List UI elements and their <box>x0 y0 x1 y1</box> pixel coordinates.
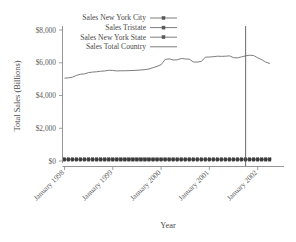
data-point-marker <box>216 158 218 160</box>
x-axis-title: Year <box>160 221 176 230</box>
data-point-marker <box>128 158 130 160</box>
data-point-marker <box>236 158 238 160</box>
y-tick-marks <box>59 30 63 161</box>
data-point-marker <box>261 158 263 160</box>
data-point-marker <box>136 158 138 160</box>
data-point-marker <box>228 158 230 160</box>
data-point-marker <box>116 158 118 160</box>
data-point-marker <box>188 158 190 160</box>
data-point-marker <box>75 158 77 160</box>
legend-sample-marker-0 <box>162 17 165 20</box>
y-tick-labels: $8,000 $6,000 $4,000 $2,000 $0 <box>36 26 57 166</box>
data-point-marker <box>224 158 226 160</box>
x-tick-label-1999: January 1999 <box>80 168 115 203</box>
y-tick-label-2000: $2,000 <box>36 124 57 133</box>
legend-label-0: Sales New York City <box>82 13 146 22</box>
data-point-marker <box>152 158 154 160</box>
data-point-marker <box>196 158 198 160</box>
data-point-marker <box>132 158 134 160</box>
data-point-marker <box>79 158 81 160</box>
data-point-marker <box>87 158 89 160</box>
data-point-marker <box>71 158 73 160</box>
data-point-marker <box>140 158 142 160</box>
chart-canvas: $8,000 $6,000 $4,000 $2,000 $0 Total Sal… <box>0 0 296 242</box>
data-point-marker <box>112 158 114 160</box>
data-point-marker <box>168 158 170 160</box>
data-point-marker <box>208 158 210 160</box>
data-point-marker <box>252 158 254 160</box>
x-tick-label-2002: January 2002 <box>225 168 260 203</box>
legend-label-3: Sales Total Country <box>86 42 146 51</box>
data-point-marker <box>192 158 194 160</box>
x-tick-label-1998: January 1998 <box>32 168 67 203</box>
data-point-marker <box>160 158 162 160</box>
data-point-marker <box>148 158 150 160</box>
legend-label-2: Sales New York State <box>80 33 146 42</box>
chart-figure: $8,000 $6,000 $4,000 $2,000 $0 Total Sal… <box>0 0 296 242</box>
x-tick-label-2000: January 2000 <box>128 168 163 203</box>
chart-legend: Sales New York CitySales TristateSales N… <box>80 13 177 51</box>
x-tick-marks <box>65 167 258 171</box>
data-point-marker <box>184 158 186 160</box>
data-point-marker <box>124 158 126 160</box>
data-point-marker <box>232 158 234 160</box>
data-point-marker <box>63 158 65 160</box>
data-point-marker <box>240 158 242 160</box>
data-point-marker <box>180 158 182 160</box>
series-line-3 <box>65 55 270 78</box>
data-point-marker <box>108 158 110 160</box>
y-tick-label-0: $0 <box>49 157 57 166</box>
data-point-marker <box>172 158 174 160</box>
data-point-marker <box>83 158 85 160</box>
x-tick-labels: January 1998 January 1999 January 2000 J… <box>32 168 260 203</box>
data-point-marker <box>212 158 214 160</box>
y-tick-label-6000: $6,000 <box>36 58 57 67</box>
data-point-marker <box>67 158 69 160</box>
data-point-marker <box>176 158 178 160</box>
data-point-marker <box>104 158 106 160</box>
legend-label-1: Sales Tristate <box>105 23 146 32</box>
data-point-marker <box>269 158 271 160</box>
legend-sample-marker-2 <box>162 36 165 39</box>
data-point-marker <box>100 158 102 160</box>
y-tick-label-8000: $8,000 <box>36 26 57 35</box>
data-point-marker <box>91 158 93 160</box>
data-point-marker <box>96 158 98 160</box>
data-point-marker <box>220 158 222 160</box>
data-point-marker <box>200 158 202 160</box>
data-point-marker <box>120 158 122 160</box>
data-point-marker <box>144 158 146 160</box>
data-point-marker <box>164 158 166 160</box>
data-point-marker <box>265 158 267 160</box>
x-tick-label-2001: January 2001 <box>176 168 211 203</box>
y-axis-title: Total Sales (Billions) <box>13 60 22 131</box>
plot-series-group <box>63 55 271 161</box>
legend-sample-marker-1 <box>162 26 165 29</box>
y-tick-label-4000: $4,000 <box>36 91 57 100</box>
data-point-marker <box>156 158 158 160</box>
data-point-marker <box>248 158 250 160</box>
data-point-marker <box>204 158 206 160</box>
data-point-marker <box>257 158 259 160</box>
